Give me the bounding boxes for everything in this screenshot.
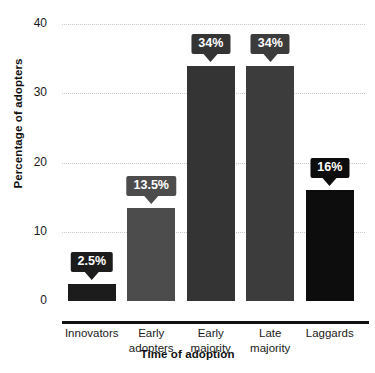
bar [187, 66, 235, 301]
y-tick-label: 10 [7, 224, 47, 238]
x-tick-label-line: Laggards [306, 326, 354, 341]
x-tick-label: Laggards [306, 326, 354, 341]
y-tick-label: 20 [7, 155, 47, 169]
data-label-callout: 34% [191, 34, 230, 54]
bars-layer: 2.5%13.5%34%34%16% InnovatorsEarlyadopte… [62, 20, 365, 302]
y-tick-label: 0 [7, 293, 47, 307]
data-label-value: 34% [191, 34, 230, 54]
data-label-pointer [204, 54, 218, 62]
data-label-value: 16% [310, 158, 349, 178]
bar [68, 284, 116, 301]
x-tick-label-line: Early [191, 326, 231, 341]
x-axis-line [62, 321, 369, 324]
data-label-callout: 16% [310, 158, 349, 178]
y-tick-label: 30 [7, 85, 47, 99]
data-label-pointer [323, 178, 337, 186]
bar [306, 190, 354, 301]
adoption-curve-bar-chart: Percentage of adopters 010203040 2.5%13.… [0, 0, 375, 373]
data-label-value: 2.5% [71, 252, 114, 272]
data-label-value: 13.5% [127, 176, 176, 196]
x-tick-label: Innovators [65, 326, 119, 341]
x-tick-label-line: Late [250, 326, 290, 341]
data-label-pointer [85, 272, 99, 280]
y-tick-label: 40 [7, 16, 47, 30]
data-label-pointer [263, 54, 277, 62]
data-label-callout: 34% [251, 34, 290, 54]
data-label-callout: 2.5% [71, 252, 114, 272]
x-axis-title: Time of adoption [0, 348, 375, 360]
data-label-pointer [144, 196, 158, 204]
bar [127, 208, 175, 301]
x-tick-label-line: Innovators [65, 326, 119, 341]
bar [246, 66, 294, 301]
x-tick-label-line: Early [129, 326, 174, 341]
data-label-value: 34% [251, 34, 290, 54]
data-label-callout: 13.5% [127, 176, 176, 196]
